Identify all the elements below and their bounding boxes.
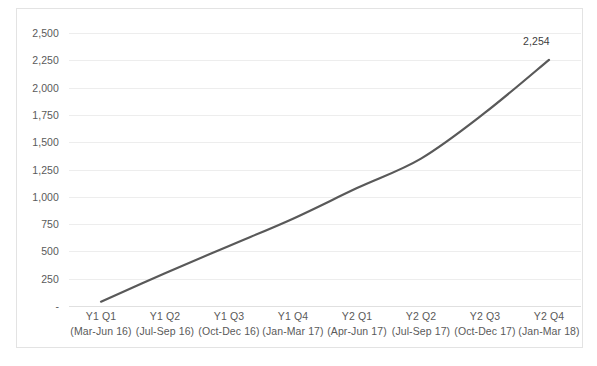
x-axis-category-name: Y2 Q4 xyxy=(517,309,581,324)
x-axis-category-period: (Jul-Sep 16) xyxy=(133,324,197,339)
x-axis-category-name: Y2 Q1 xyxy=(325,309,389,324)
y-axis-tick-label: 500 xyxy=(41,245,59,257)
x-axis-category-name: Y2 Q2 xyxy=(389,309,453,324)
x-axis-category: Y1 Q4(Jan-Mar 17) xyxy=(261,309,325,339)
data-label-y2q4: 2,254 xyxy=(523,35,550,47)
plot-area: 2,254 xyxy=(69,33,581,306)
y-axis-tick-label: 1,750 xyxy=(32,109,59,121)
y-axis-tick-label: 2,500 xyxy=(32,27,59,39)
x-axis-category-period: (Jul-Sep 17) xyxy=(389,324,453,339)
x-axis-category: Y1 Q1(Mar-Jun 16) xyxy=(69,309,133,339)
y-axis-tick-label: 1,250 xyxy=(32,164,59,176)
x-axis-category-name: Y1 Q1 xyxy=(69,309,133,324)
y-axis-tick-label: 2,250 xyxy=(32,54,59,66)
line-series xyxy=(69,33,581,306)
y-axis-tick-label: 250 xyxy=(41,273,59,285)
y-axis-tick-label: 750 xyxy=(41,218,59,230)
x-axis-category-period: (Mar-Jun 16) xyxy=(69,324,133,339)
chart-container: 2,5002,2502,0001,7501,5001,2501,00075050… xyxy=(16,8,583,348)
x-axis-category: Y2 Q1(Apr-Jun 17) xyxy=(325,309,389,339)
x-axis-category-name: Y2 Q3 xyxy=(453,309,517,324)
x-axis-category: Y2 Q4(Jan-Mar 18) xyxy=(517,309,581,339)
x-axis-category-name: Y1 Q3 xyxy=(197,309,261,324)
x-axis-category-period: (Oct-Dec 17) xyxy=(453,324,517,339)
x-axis-category: Y2 Q2(Jul-Sep 17) xyxy=(389,309,453,339)
x-axis-category-period: (Jan-Mar 18) xyxy=(517,324,581,339)
y-axis-tick-label: 1,000 xyxy=(32,191,59,203)
x-axis-category-period: (Oct-Dec 16) xyxy=(197,324,261,339)
x-axis-category-labels: Y1 Q1(Mar-Jun 16)Y1 Q2(Jul-Sep 16)Y1 Q3(… xyxy=(69,309,581,351)
x-axis-category: Y1 Q3(Oct-Dec 16) xyxy=(197,309,261,339)
x-axis-category-period: (Apr-Jun 17) xyxy=(325,324,389,339)
series-line-path xyxy=(101,60,549,302)
y-axis-tick-label: 2,000 xyxy=(32,82,59,94)
x-axis-category-name: Y1 Q4 xyxy=(261,309,325,324)
x-axis-category: Y1 Q2(Jul-Sep 16) xyxy=(133,309,197,339)
y-axis-tick-label: - xyxy=(55,300,59,312)
x-axis-category-name: Y1 Q2 xyxy=(133,309,197,324)
x-axis-category-period: (Jan-Mar 17) xyxy=(261,324,325,339)
x-axis-category: Y2 Q3(Oct-Dec 17) xyxy=(453,309,517,339)
gridline xyxy=(69,306,581,307)
y-axis-tick-label: 1,500 xyxy=(32,136,59,148)
y-axis-tick-labels: 2,5002,2502,0001,7501,5001,2501,00075050… xyxy=(17,33,65,306)
